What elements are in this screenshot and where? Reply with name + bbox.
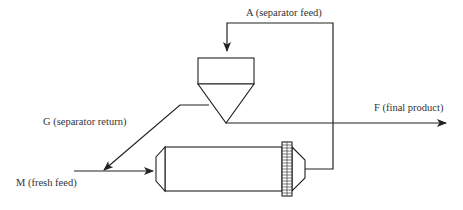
label-separator-feed: A (separator feed) bbox=[246, 7, 322, 19]
mill-left-cap bbox=[156, 147, 165, 191]
label-final-product: F (final product) bbox=[374, 102, 444, 114]
mill-gear-ring-icon bbox=[282, 142, 292, 196]
label-fresh-feed: M (fresh feed) bbox=[16, 177, 77, 189]
separator-cone bbox=[198, 84, 254, 123]
mill-right-cap bbox=[292, 147, 305, 191]
label-separator-return: G (separator return) bbox=[43, 116, 127, 128]
separator-body bbox=[198, 58, 254, 84]
separator bbox=[198, 58, 254, 123]
process-flow-diagram: A (separator feed) G (separator return) … bbox=[0, 0, 463, 210]
mill bbox=[156, 142, 305, 196]
mill-body bbox=[165, 147, 282, 191]
